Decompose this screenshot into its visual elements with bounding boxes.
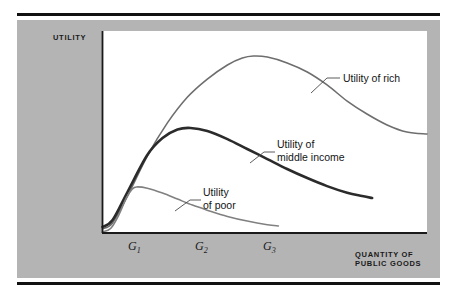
curve-label-poor: Utility of poor	[203, 186, 236, 212]
tick-g2-subscript: 2	[204, 246, 208, 255]
leader-line-poor	[175, 200, 201, 211]
tick-g3-letter: G	[263, 239, 272, 253]
x-tick-label-g2: G2	[195, 239, 208, 255]
y-axis-title: UTILITY	[53, 33, 86, 42]
tick-g2-letter: G	[195, 239, 204, 253]
tick-g3-subscript: 3	[272, 246, 276, 255]
x-tick-label-g3: G3	[263, 239, 276, 255]
tick-g1-letter: G	[128, 239, 137, 253]
tick-g1-subscript: 1	[137, 246, 141, 255]
figure-container: UTILITY QUANTITY OF PUBLIC GOODS G1 G2 G…	[0, 0, 457, 300]
curve-label-rich: Utility of rich	[343, 72, 400, 85]
curve-label-middle: Utility of middle income	[277, 138, 345, 164]
x-tick-label-g1: G1	[128, 239, 141, 255]
x-axis-title: QUANTITY OF PUBLIC GOODS	[355, 250, 421, 269]
axis-lines	[102, 31, 427, 233]
curve-utility-of-poor	[103, 187, 279, 232]
